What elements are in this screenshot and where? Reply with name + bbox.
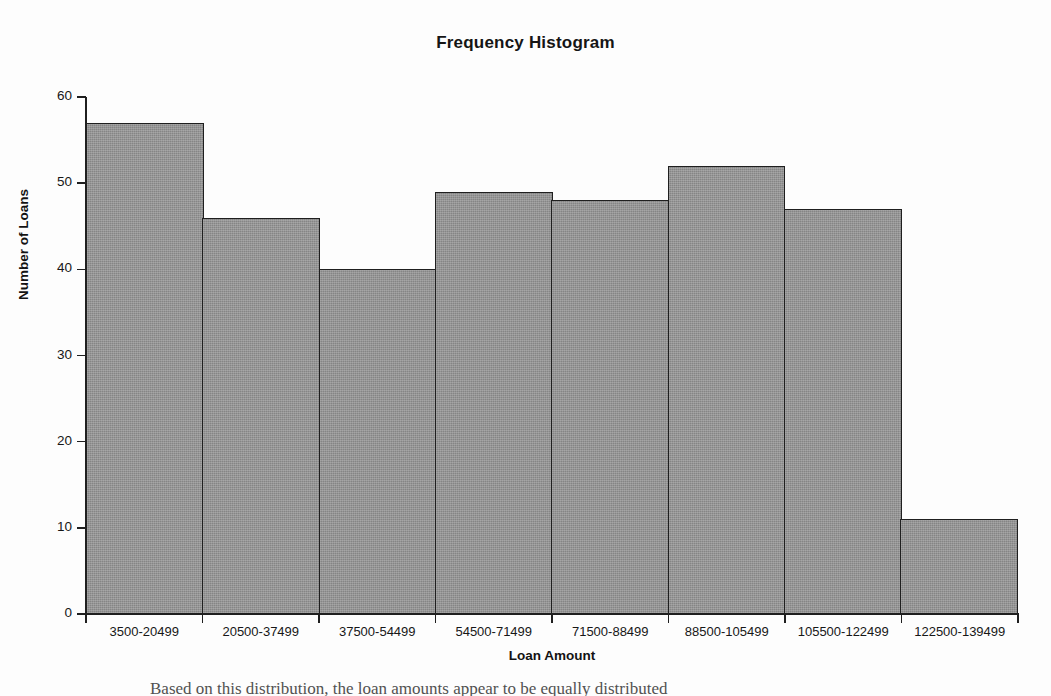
x-axis-tick-label: 71500-88499 (552, 624, 669, 639)
x-axis-tick-label: 122500-139499 (902, 624, 1019, 639)
x-axis-tick (901, 614, 902, 623)
x-axis-tick-label: 105500-122499 (785, 624, 902, 639)
x-axis-tick (668, 614, 669, 623)
histogram-bar (900, 519, 1018, 614)
histogram-bar (784, 209, 902, 614)
x-axis-tick (1017, 614, 1018, 623)
y-axis-tick-label: 0 (38, 605, 72, 620)
x-axis-label-group: 3500-2049920500-3749937500-5449954500-71… (86, 624, 1018, 639)
x-axis-tick (435, 614, 436, 623)
x-axis-tick (85, 614, 86, 623)
page-footer-text: Based on this distribution, the loan amo… (150, 679, 930, 696)
chart-title: Frequency Histogram (0, 33, 1051, 53)
histogram-bar (668, 166, 786, 614)
histogram-bar (435, 192, 553, 614)
y-axis-tick-label: 10 (38, 519, 72, 534)
y-axis-tick-label: 40 (38, 260, 72, 275)
x-axis-tick (784, 614, 785, 623)
y-axis-tick-label: 50 (38, 174, 72, 189)
x-axis-tick (202, 614, 203, 623)
plot-area (86, 97, 1018, 614)
histogram-bar (202, 218, 320, 614)
y-axis-tick-label: 20 (38, 433, 72, 448)
x-axis-tick (551, 614, 552, 623)
y-axis-title: Number of Loans (16, 189, 31, 300)
x-axis-tick-label: 20500-37499 (203, 624, 320, 639)
y-axis-tick-label: 30 (38, 347, 72, 362)
x-axis-tick-label: 37500-54499 (319, 624, 436, 639)
x-axis-tick-label: 3500-20499 (86, 624, 203, 639)
histogram-bar (551, 200, 669, 614)
y-axis-tick-label: 60 (38, 88, 72, 103)
x-axis-tick-label: 54500-71499 (436, 624, 553, 639)
x-axis-title: Loan Amount (86, 648, 1018, 663)
x-axis-tick-label: 88500-105499 (669, 624, 786, 639)
x-axis-tick (318, 614, 319, 623)
bar-group (86, 97, 1018, 614)
histogram-page: Frequency Histogram 0102030405060 3500-2… (0, 0, 1051, 696)
histogram-bar (319, 269, 437, 614)
histogram-bar (86, 123, 204, 614)
